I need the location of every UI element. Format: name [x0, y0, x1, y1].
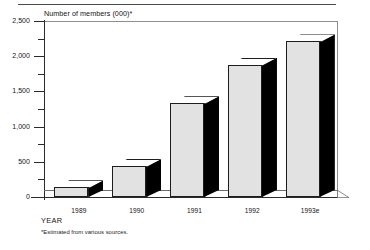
bar-1993e [286, 34, 335, 197]
y-tick-major [34, 56, 44, 57]
y-tick-label: 2,000 [0, 52, 30, 59]
plot-top-border [44, 21, 338, 22]
y-axis-line [44, 20, 45, 200]
y-tick-label: 0 [0, 193, 30, 200]
bar-front-face [112, 166, 146, 197]
bar-side-face [262, 58, 277, 197]
y-tick-label: 1,500 [0, 87, 30, 94]
bar-front-face [170, 103, 204, 197]
y-tick-major [34, 127, 44, 128]
y-tick-minor [38, 74, 44, 75]
bar-1992 [228, 58, 277, 197]
bar-side-face [320, 34, 335, 197]
y-tick-minor [38, 109, 44, 110]
bar-1989 [54, 180, 103, 197]
x-tick-label: 1993e [274, 207, 347, 214]
floor-right-wedge [337, 190, 349, 198]
bar-front-face [54, 187, 88, 197]
plot-area: 05001,0001,5002,0002,500 198919901991199… [0, 0, 370, 250]
x-axis-line [31, 197, 338, 198]
y-tick-label: 2,500 [0, 17, 30, 24]
y-tick-major [34, 91, 44, 92]
plot-right-border [337, 21, 338, 198]
y-tick-major [34, 197, 44, 198]
bar-1991 [170, 96, 219, 197]
chart-footnote: *Estimated from various sources. [41, 229, 128, 235]
y-tick-label: 500 [0, 158, 30, 165]
y-tick-major [34, 21, 44, 22]
x-axis-title: YEAR [41, 216, 62, 225]
bar-1990 [112, 159, 161, 197]
y-tick-label: 1,000 [0, 123, 30, 130]
figure-container: Number of members (000)* 05001,0001,5002… [0, 0, 370, 250]
bar-front-face [286, 41, 320, 197]
bar-front-face [228, 65, 262, 197]
bar-side-face [204, 96, 219, 197]
y-tick-major [34, 162, 44, 163]
y-tick-minor [38, 39, 44, 40]
y-tick-minor [38, 179, 44, 180]
y-tick-minor [38, 144, 44, 145]
